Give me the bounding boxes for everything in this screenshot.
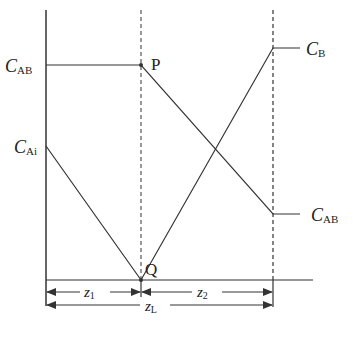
- cab-right-label: CAB: [311, 205, 338, 225]
- point-q-label: Q: [145, 260, 157, 279]
- point-p-marker: [139, 63, 143, 67]
- cab-profile-line: [46, 65, 300, 214]
- cai-label: CAi: [14, 137, 37, 157]
- ca-profile-line: [46, 48, 300, 280]
- concentration-profile-diagram: CAB CAi CB CAB P Q z1 z2 zL: [0, 0, 353, 343]
- cab-left-label: CAB: [5, 56, 32, 76]
- point-p-label: P: [151, 55, 160, 74]
- cb-label: CB: [306, 39, 325, 59]
- point-q-marker: [139, 278, 143, 282]
